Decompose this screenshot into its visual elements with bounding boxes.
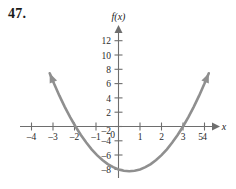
x-tick-label-4: 4 xyxy=(202,132,207,142)
function-name-label: f(x) xyxy=(112,11,127,23)
y-tick-label--2: –2 xyxy=(101,126,112,136)
x-axis-name-label: x xyxy=(221,121,227,132)
x-tick-label--2: –2 xyxy=(69,132,80,142)
parabola-curve xyxy=(50,73,209,171)
y-tick-label-10: 10 xyxy=(102,51,112,61)
y-tick-label--4: –4 xyxy=(101,136,112,146)
y-tick-label-2: 2 xyxy=(106,108,111,118)
x-tick-label-2: 2 xyxy=(159,132,164,142)
x-tick-label--4: –4 xyxy=(26,132,37,142)
y-axis-arrowhead xyxy=(115,25,123,33)
x-tick-label--3: –3 xyxy=(47,132,58,142)
y-tick-label-12: 12 xyxy=(102,36,112,46)
y-tick-label-6: 6 xyxy=(106,79,111,89)
y-tick-label-8: 8 xyxy=(106,65,111,75)
curve-left-arrowhead xyxy=(50,73,57,83)
graph-plot: –4 –3 –2 –1 0 1 2 3 4 –8 –6 –4 –2 2 4 6 … xyxy=(0,0,236,189)
x-tick-label-1: 1 xyxy=(138,132,143,142)
figure-container: 47. xyxy=(0,0,236,189)
x-tick-label-3: 3 xyxy=(181,132,186,142)
y-tick-label-4: 4 xyxy=(106,94,111,104)
curve-right-arrowhead xyxy=(201,73,208,83)
x-tick-label-5: 5 xyxy=(198,132,203,142)
x-tick-label--1: –1 xyxy=(90,132,101,142)
x-axis-arrowhead xyxy=(212,123,220,131)
